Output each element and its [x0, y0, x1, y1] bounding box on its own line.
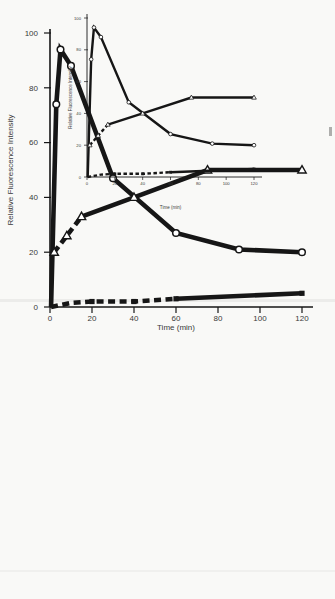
x-axis-label: Time (min) — [160, 205, 182, 210]
y-tick-label: 20 — [29, 248, 38, 257]
open-circle-marker — [127, 100, 131, 104]
filled-square-marker — [169, 171, 172, 174]
y-tick-label: 20 — [76, 143, 81, 148]
fluorescence-chart-small: 020406080100020406080100120Time (min)Rel… — [0, 0, 335, 241]
open-circle-marker — [169, 132, 173, 136]
x-tick-label: 100 — [253, 314, 267, 323]
series-open-circle-series — [88, 26, 256, 177]
filled-square-marker — [299, 291, 304, 296]
scan-artifact-band — [0, 570, 335, 572]
filled-square-marker — [253, 168, 256, 171]
filled-square-marker — [131, 299, 136, 304]
x-tick-label: 40 — [140, 181, 145, 186]
x-tick-label: 0 — [86, 181, 89, 186]
y-tick-label: 0 — [79, 175, 82, 180]
y-tick-label: 40 — [76, 111, 81, 116]
open-circle-marker — [252, 143, 256, 147]
x-tick-label: 0 — [48, 314, 53, 323]
open-circle-marker — [89, 58, 93, 62]
scanned-figure-page: 020406080100020406080100120Time (min)Rel… — [0, 0, 335, 599]
y-axis-label: Relative Fluorescence Intensity — [68, 65, 73, 128]
series-line — [88, 28, 254, 177]
open-circle-marker — [299, 249, 306, 256]
x-tick-label: 120 — [295, 314, 309, 323]
series-filled-square-series — [51, 291, 305, 307]
y-tick-label: 60 — [76, 79, 81, 84]
x-tick-label: 100 — [223, 181, 231, 186]
x-tick-label: 60 — [168, 181, 173, 186]
series-line — [88, 172, 171, 177]
x-tick-label: 80 — [214, 314, 223, 323]
y-tick-label: 80 — [76, 47, 81, 52]
series-line — [171, 169, 255, 172]
x-tick-label: 80 — [196, 181, 201, 186]
y-tick-label: 0 — [34, 303, 39, 312]
series-line — [51, 299, 176, 307]
x-tick-label: 20 — [88, 314, 97, 323]
series-line — [176, 293, 302, 298]
x-tick-label: 20 — [112, 181, 117, 186]
series-filled-square-series — [88, 168, 256, 177]
open-circle-marker — [210, 142, 214, 146]
x-tick-label: 60 — [172, 314, 181, 323]
filled-square-marker — [141, 172, 144, 175]
filled-square-marker — [89, 299, 94, 304]
open-circle-marker — [99, 35, 103, 39]
x-tick-label: 40 — [130, 314, 139, 323]
open-circle-marker — [236, 246, 243, 253]
y-tick-label: 100 — [74, 16, 82, 21]
series-open-triangle-series — [87, 95, 256, 147]
filled-square-marker — [173, 296, 178, 301]
x-axis-label: Time (min) — [157, 323, 195, 332]
open-circle-marker — [92, 26, 96, 30]
x-tick-label: 120 — [251, 181, 259, 186]
filled-square-marker — [113, 172, 116, 175]
